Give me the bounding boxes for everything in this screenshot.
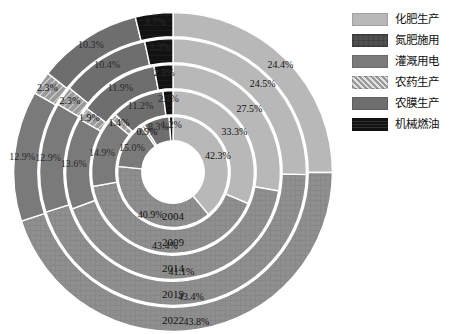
segment-percent-label: 1.4% xyxy=(108,117,129,128)
legend-label-plastic-film-production: 农膜生产 xyxy=(395,96,439,110)
segment-percent-label: 13.6% xyxy=(61,158,87,169)
segment-percent-label: 1.9% xyxy=(79,112,100,123)
segment-percent-label: 3.7% xyxy=(144,16,165,27)
segment-percent-label: 43.8% xyxy=(183,316,209,327)
segment-percent-label: 2.3% xyxy=(59,95,80,106)
segment-percent-label: 10.4% xyxy=(94,59,120,70)
legend-item-plastic-film-production[interactable]: 农膜生产 xyxy=(352,96,467,110)
legend-swatch-plastic-film-production xyxy=(352,97,388,110)
segment-percent-label: 11.9% xyxy=(108,82,133,93)
segment-percent-label: 12.9% xyxy=(9,151,35,162)
legend-item-machinery-fuel[interactable]: 机械燃油 xyxy=(352,117,467,131)
segment-percent-label: 11.2% xyxy=(128,100,153,111)
legend-item-irrigation-electricity[interactable]: 灌溉用电 xyxy=(352,54,467,68)
legend-swatch-nitrogen-application xyxy=(352,34,388,47)
legend-label-pesticide-production: 农药生产 xyxy=(395,75,439,89)
donut-center-hole xyxy=(143,142,203,202)
ring-year-label: 2009 xyxy=(162,236,185,248)
legend-item-fertilizer-production[interactable]: 化肥生产 xyxy=(352,12,467,26)
legend-swatch-irrigation-electricity xyxy=(352,55,388,68)
segment-percent-label: 1.2% xyxy=(161,119,182,130)
segment-percent-label: 40.9% xyxy=(138,209,164,220)
ring-year-label: 2014 xyxy=(162,262,185,274)
segment-percent-label: 2.8% xyxy=(154,67,175,78)
segment-percent-label: 2.3% xyxy=(37,82,58,93)
ring-year-label: 2004 xyxy=(162,210,185,222)
legend-item-nitrogen-application[interactable]: 氮肥施用 xyxy=(352,33,467,47)
segment-percent-label: 42.3% xyxy=(205,150,231,161)
ring-year-label: 2022 xyxy=(162,314,184,326)
segment-percent-label: 2.1% xyxy=(158,93,179,104)
legend-label-machinery-fuel: 机械燃油 xyxy=(395,117,439,131)
legend-item-pesticide-production[interactable]: 农药生产 xyxy=(352,75,467,89)
segment-percent-label: 24.4% xyxy=(267,59,293,70)
legend-label-fertilizer-production: 化肥生产 xyxy=(395,12,439,26)
segment-percent-label: 15.0% xyxy=(119,142,145,153)
chart-legend: 化肥生产 氮肥施用 灌溉用电 农药生产 农膜生产 机械燃油 xyxy=(352,12,467,131)
segment-percent-label: 24.5% xyxy=(250,78,276,89)
legend-label-irrigation-electricity: 灌溉用电 xyxy=(395,54,439,68)
segment-percent-label: 10.3% xyxy=(78,39,104,50)
nested-donut-svg: 42.3%40.9%15.0%0.9%8.3%1.2%33.3%43.4%14.… xyxy=(0,0,350,334)
ring-year-label: 2019 xyxy=(162,288,185,300)
legend-swatch-pesticide-production xyxy=(352,76,388,89)
sunburst-chart: 42.3%40.9%15.0%0.9%8.3%1.2%33.3%43.4%14.… xyxy=(0,0,350,334)
segment-percent-label: 14.9% xyxy=(89,147,115,158)
segment-percent-label: 12.9% xyxy=(35,152,61,163)
legend-swatch-fertilizer-production xyxy=(352,13,388,26)
legend-swatch-machinery-fuel xyxy=(352,118,388,131)
segment-percent-label: 3.3% xyxy=(149,41,170,52)
segment-percent-label: 33.3% xyxy=(221,126,247,137)
segment-percent-label: 27.5% xyxy=(237,103,263,114)
legend-label-nitrogen-application: 氮肥施用 xyxy=(395,33,439,47)
